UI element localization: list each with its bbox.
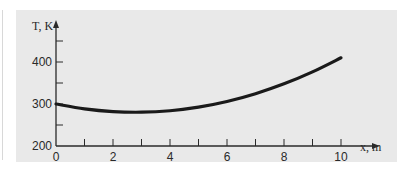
temperature-curve	[56, 58, 341, 112]
axes	[53, 20, 380, 149]
x-tick-label: 2	[110, 150, 117, 164]
x-tick-label: 8	[281, 150, 288, 164]
x-tick-label: 0	[53, 150, 60, 164]
x-tick-label: 6	[224, 150, 231, 164]
y-axis-label: T, K	[32, 19, 53, 33]
y-tick-label: 400	[32, 55, 52, 69]
ticks	[56, 41, 341, 146]
x-axis-label: x, m	[360, 140, 382, 154]
y-tick-label: 200	[32, 139, 52, 153]
line-chart: 0246810200300400 T, K x, m	[0, 0, 413, 175]
x-tick-label: 10	[334, 150, 348, 164]
y-tick-label: 300	[32, 97, 52, 111]
y-axis-arrow-icon	[53, 20, 59, 28]
x-tick-label: 4	[167, 150, 174, 164]
